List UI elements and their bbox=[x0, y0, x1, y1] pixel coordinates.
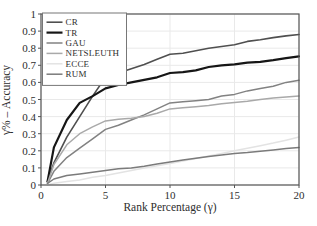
y-tick-label: 0.7 bbox=[22, 59, 36, 71]
y-tick-label: 0.1 bbox=[22, 162, 36, 174]
y-tick-label: 0.2 bbox=[22, 145, 36, 157]
legend-label-ecce: ECCE bbox=[66, 59, 90, 69]
x-tick-label: 15 bbox=[229, 189, 241, 201]
legend-label-cr: CR bbox=[66, 17, 78, 27]
y-tick-label: 0 bbox=[31, 179, 37, 191]
y-tick-label: 0.5 bbox=[22, 94, 36, 106]
y-tick-label: 1 bbox=[31, 8, 37, 20]
x-tick-label: 10 bbox=[165, 189, 177, 201]
chart-canvas: 0510152000.10.20.30.40.50.60.70.80.91 CR… bbox=[0, 0, 317, 226]
x-tick-label: 0 bbox=[38, 189, 44, 201]
legend-label-netsleuth: NETSLEUTH bbox=[66, 48, 120, 58]
legend-label-tr: TR bbox=[66, 28, 78, 38]
y-axis-label: γ% – Accuracy bbox=[0, 65, 13, 136]
y-tick-label: 0.6 bbox=[22, 76, 36, 88]
y-tick-label: 0.3 bbox=[22, 128, 36, 140]
legend-label-gau: GAU bbox=[66, 38, 86, 48]
accuracy-vs-rank-chart: 0510152000.10.20.30.40.50.60.70.80.91 CR… bbox=[0, 0, 317, 226]
legend-label-rum: RUM bbox=[66, 69, 87, 79]
x-tick-label: 20 bbox=[294, 189, 306, 201]
y-tick-label: 0.9 bbox=[22, 25, 36, 37]
series-line-rum bbox=[48, 147, 300, 183]
x-axis-label: Rank Percentage (γ) bbox=[123, 201, 216, 214]
y-tick-label: 0.8 bbox=[22, 42, 36, 54]
y-tick-label: 0.4 bbox=[22, 111, 36, 123]
x-tick-label: 5 bbox=[103, 189, 109, 201]
